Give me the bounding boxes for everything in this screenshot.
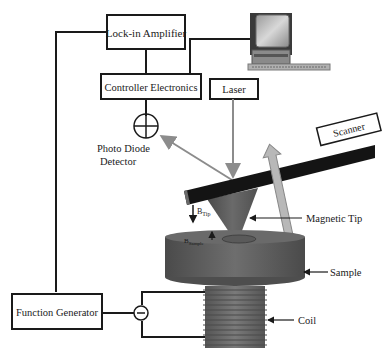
lockin-amplifier-label: Lock-in Amplifier [106, 27, 187, 39]
wire-source-coil-top [142, 292, 206, 305]
computer-icon [248, 13, 330, 70]
controller-electronics-box: Controller Electronics [101, 74, 201, 99]
b-tip-subscript: Tip [202, 211, 210, 217]
wire-controller-computer [190, 39, 253, 74]
function-generator-box: Function Generator [12, 294, 102, 329]
ac-source-icon [134, 306, 148, 320]
mfm-diagram: Lock-in Amplifier Controller Electronics… [0, 0, 382, 350]
magnetic-tip-label: Magnetic Tip [306, 213, 362, 224]
laser-beam [163, 99, 233, 180]
lockin-amplifier-box: Lock-in Amplifier [106, 15, 187, 49]
laser-reflected-beam [163, 137, 232, 180]
photodiode-label-line2: Detector [100, 156, 137, 167]
photodiode-label-line1: Photo Diode [97, 143, 150, 154]
sample-label: Sample [330, 267, 362, 278]
scanner-box: Scanner [317, 113, 382, 145]
laser-box: Laser [210, 79, 258, 99]
laser-label: Laser [222, 84, 246, 95]
photodiode-icon [134, 114, 158, 138]
b-sample-subscript: Sample [189, 241, 205, 246]
svg-text:BTip: BTip [197, 207, 210, 217]
b-tip-indicator: BTip [193, 205, 210, 222]
controller-electronics-label: Controller Electronics [104, 82, 197, 93]
wire-source-coil-bottom [142, 321, 206, 337]
coil [203, 286, 267, 348]
function-generator-label: Function Generator [16, 307, 98, 318]
coil-label: Coil [298, 315, 316, 326]
